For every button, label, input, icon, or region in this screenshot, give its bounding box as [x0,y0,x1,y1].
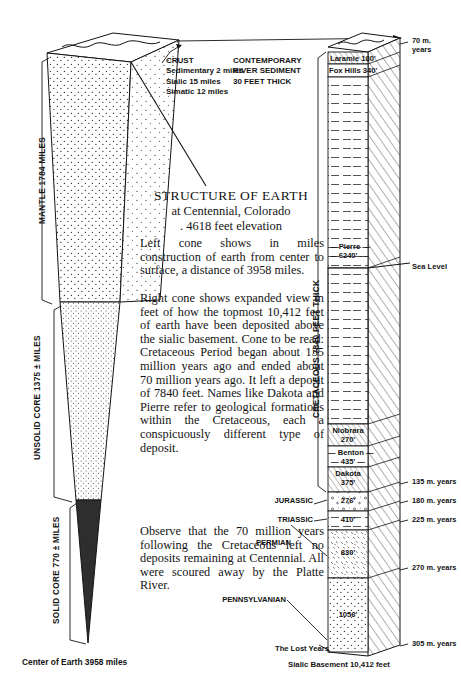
formation-label-niobrara: Niobrara 270' [329,426,367,445]
crust-callout: CRUST Sedimentary 2 miles Sialic 15 mile… [166,56,243,98]
solid-core-label: SOLID CORE 770 ± MILES [52,516,61,624]
formation-benton-line-2: — 435' — [328,457,368,466]
age-label-270my: 270 m. years [412,564,456,573]
description-paragraph-3: Observe that the 70 million years follow… [140,525,324,593]
age-label-305my: 305 m. years [412,640,456,649]
sialic-basement-label: Sialic Basement 10,412 feet [288,660,390,669]
formation-dakota-line-1: Dakota [329,469,367,478]
age-70my-line-2: years [412,46,431,55]
river-callout-line-3: 30 FEET THICK [233,77,302,87]
age-tick-marks [400,42,408,646]
title-line-2: at Centennial, Colorado [140,204,322,219]
period-label-triassic: TRIASSIC [258,515,313,524]
unsolid-core-label: UNSOLID CORE 1375 ± MILES [33,335,42,460]
sea-level-label: Sea Level [412,262,447,271]
river-callout-line-1: CONTEMPORARY [233,56,302,66]
formation-label-triassic-thickness: 410' [329,515,367,524]
lost-years-label: The Lost Years [275,644,329,653]
formation-niobrara-line-1: Niobrara [329,426,367,435]
formation-label-benton: — Benton — — 435' — [328,448,368,467]
formation-label-dakota: Dakota 375' [329,469,367,488]
formation-label-jurassic-thickness: 276' [329,496,367,505]
title-line-3: . 4618 feet elevation [140,219,322,234]
formation-pierre-line-2: — 6240' — [329,251,367,260]
center-of-earth-label: Center of Earth 3958 miles [22,657,127,667]
age-label-180my: 180 m. years [412,497,456,506]
mantle-label: MANTLE 1784 MILES [38,137,47,224]
basement-line [328,652,368,656]
right-column-side-face [368,38,400,656]
crust-callout-line-3: Simatic 12 miles [166,87,243,97]
age-label-225my: 225 m. years [412,516,456,525]
formation-benton-line-1: — Benton — [328,448,368,457]
crust-callout-line-1: Sedimentary 2 miles [166,66,243,76]
page-title: STRUCTURE OF EARTH at Centennial, Colora… [140,188,322,234]
river-sediment-callout: CONTEMPORARY RIVER SEDIMENT 30 FEET THIC… [233,56,302,87]
strata-front-face [328,52,368,656]
period-label-permian: PERMIAN [233,538,291,547]
description-paragraph-1: Left cone shows in miles construction of… [140,237,324,278]
title-line-1: STRUCTURE OF EARTH [140,188,322,204]
age-label-135my: 135 m. years [412,478,456,487]
formation-pierre-line-1: — Pierre — [329,242,367,251]
formation-label-pierre: — Pierre — — 6240' — [329,242,367,261]
period-label-pennsylvanian: PENNSYLVANIAN [196,595,286,604]
layer-pierre-lower [328,268,368,424]
river-callout-line-2: RIVER SEDIMENT [233,66,302,76]
crust-callout-line-2: Sialic 15 miles [166,77,243,87]
formation-label-laramie: Laramie 180' [330,54,368,63]
age-label-70my: 70 m. years [412,37,431,54]
formation-dakota-line-2: 375' [329,478,367,487]
formation-niobrara-line-2: 270' [329,435,367,444]
layer-pierre-upper [328,77,368,268]
description-paragraph-2: Right cone shows expanded view in feet o… [140,292,324,455]
diagram-canvas: CRUST Sedimentary 2 miles Sialic 15 mile… [0,0,461,685]
cretaceous-thickness-label: CRETACEOUS 7840 FEET THICK [311,280,321,418]
formation-label-pennsylvanian-thickness: 1056' [329,610,367,619]
formation-label-fox-hills: Fox Hills 340' [329,66,369,75]
period-label-jurassic: JURASSIC [258,496,313,505]
formation-label-permian-thickness: 830' [329,548,367,557]
crust-callout-heading: CRUST [166,56,243,66]
